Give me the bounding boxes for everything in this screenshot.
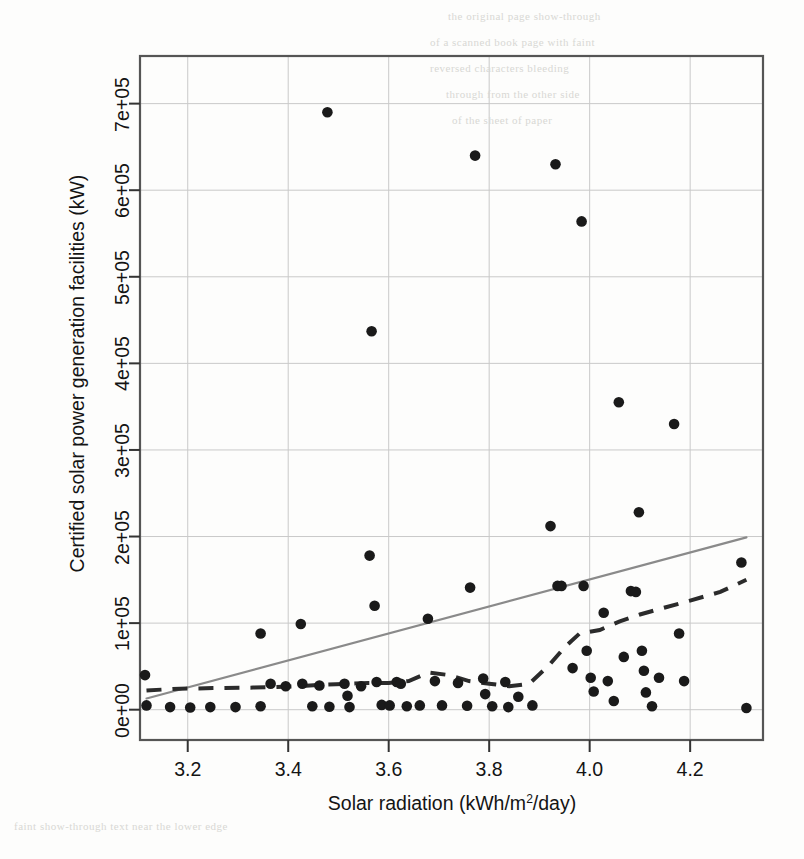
data-point	[205, 702, 216, 713]
showthrough-text: reversed characters bleeding	[430, 62, 569, 74]
data-point	[500, 677, 511, 688]
data-point	[470, 150, 481, 161]
data-point	[384, 700, 395, 711]
data-point	[396, 678, 407, 689]
axis-ticks	[129, 104, 690, 752]
y-tick-label: 5e+05	[111, 232, 134, 322]
data-point	[297, 678, 308, 689]
x-axis-title: Solar radiation (kWh/m2/day)	[140, 792, 764, 815]
x-tick-label: 3.8	[449, 758, 529, 781]
showthrough-text: the original page show-through	[448, 10, 601, 22]
y-tick-label: 4e+05	[111, 319, 134, 409]
data-point	[634, 507, 645, 518]
plot-frame	[140, 56, 763, 740]
x-axis-title-before: Solar radiation (kWh/m	[328, 792, 526, 814]
showthrough-text: of the sheet of paper	[452, 114, 552, 126]
data-point	[415, 700, 426, 711]
x-tick-label: 3.6	[349, 758, 429, 781]
data-point	[679, 676, 690, 687]
data-point	[453, 678, 464, 689]
data-point	[437, 700, 448, 711]
data-point	[265, 678, 276, 689]
data-point	[465, 582, 476, 593]
data-point	[736, 557, 747, 568]
data-point	[480, 689, 491, 700]
data-point	[371, 677, 382, 688]
y-axis-title: Certified solar power generation facilit…	[66, 94, 89, 654]
data-point	[527, 700, 538, 711]
data-point	[140, 670, 151, 681]
data-point	[641, 687, 652, 698]
data-point	[255, 628, 266, 639]
data-point	[369, 601, 380, 612]
data-point	[576, 216, 587, 227]
data-point	[631, 587, 642, 598]
data-point	[545, 521, 556, 532]
x-tick-label: 4.0	[550, 758, 630, 781]
data-point	[503, 702, 514, 713]
data-point	[556, 581, 567, 592]
showthrough-text: through from the other side	[446, 88, 580, 100]
y-tick-label: 3e+05	[111, 405, 134, 495]
y-tick-label: 7e+05	[111, 59, 134, 149]
showthrough-text: faint show-through text near the lower e…	[14, 820, 228, 832]
data-point	[619, 652, 630, 663]
y-tick-label: 0e+00	[111, 665, 134, 755]
data-point	[513, 691, 524, 702]
data-point	[588, 686, 599, 697]
x-axis-title-after: /day)	[533, 792, 576, 814]
data-point	[230, 702, 241, 713]
data-point	[339, 678, 350, 689]
y-tick-label: 2e+05	[111, 492, 134, 582]
data-point	[344, 702, 355, 713]
y-tick-label: 6e+05	[111, 146, 134, 236]
data-point	[165, 702, 176, 713]
data-point	[598, 607, 609, 618]
data-point	[487, 701, 498, 712]
data-point	[654, 672, 665, 683]
data-point	[141, 700, 152, 711]
x-tick-label: 3.4	[248, 758, 328, 781]
data-point	[639, 665, 650, 676]
data-point	[430, 676, 441, 687]
data-point	[567, 663, 578, 674]
x-tick-label: 4.2	[650, 758, 730, 781]
data-point	[402, 701, 413, 712]
data-point	[364, 550, 375, 561]
data-point	[185, 702, 196, 713]
y-tick-label: 1e+05	[111, 579, 134, 669]
data-point	[324, 701, 335, 712]
scatter-points	[140, 107, 752, 713]
data-point	[342, 691, 353, 702]
gridlines	[140, 56, 763, 740]
data-point	[637, 646, 648, 657]
data-point	[296, 619, 307, 630]
data-point	[462, 701, 473, 712]
data-point	[314, 680, 325, 691]
data-point	[423, 614, 434, 625]
data-point	[366, 326, 377, 337]
data-point	[550, 159, 561, 170]
showthrough-text: of a scanned book page with faint	[430, 36, 595, 48]
data-point	[647, 701, 658, 712]
data-point	[307, 701, 318, 712]
data-point	[280, 681, 291, 692]
data-point	[255, 701, 266, 712]
x-tick-label: 3.2	[148, 758, 228, 781]
data-point	[669, 419, 680, 430]
data-point	[603, 676, 614, 687]
data-point	[614, 397, 625, 408]
data-point	[609, 696, 620, 707]
data-point	[585, 672, 596, 683]
data-point	[478, 673, 489, 684]
data-point	[578, 581, 589, 592]
data-point	[356, 681, 367, 692]
data-point	[322, 107, 333, 118]
data-point	[674, 628, 685, 639]
data-point	[741, 703, 752, 714]
x-axis-title-superscript: 2	[526, 792, 533, 806]
data-point	[581, 646, 592, 657]
